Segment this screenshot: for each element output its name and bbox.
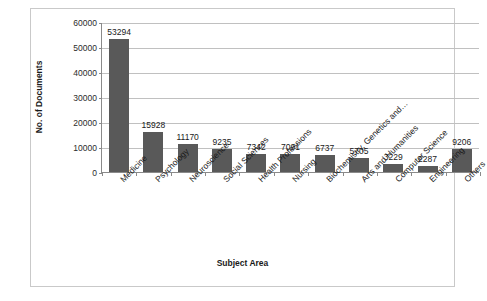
y-axis-tick-label: 60000 <box>73 18 97 28</box>
bar-value-label: 11170 <box>176 132 198 142</box>
y-axis-tick-label: 40000 <box>73 68 97 78</box>
bar-value-label: 9206 <box>452 137 471 147</box>
y-axis-tick-label: 10000 <box>73 143 97 153</box>
bar-slot: 15928 <box>136 23 170 172</box>
y-axis-tick-label: 20000 <box>73 118 97 128</box>
x-axis-tick-mark <box>446 172 447 176</box>
bar-value-label: 6737 <box>315 143 334 153</box>
x-axis-tick-mark <box>343 172 344 176</box>
x-axis-tick-mark <box>102 172 103 176</box>
bar-value-label: 53294 <box>107 27 131 37</box>
bar-value-label: 15928 <box>142 120 166 130</box>
y-axis-tick-label: 30000 <box>73 93 97 103</box>
y-axis-title: No. of Documents <box>34 61 44 134</box>
bar-slot: 53294 <box>102 23 136 172</box>
chart-frame: No. of Documents 60000500004000030000200… <box>30 8 455 287</box>
x-axis-tick-mark <box>239 172 240 176</box>
y-axis-tick-label: 0 <box>92 168 97 178</box>
y-axis-tick-label: 50000 <box>73 43 97 53</box>
bar[interactable] <box>143 132 163 172</box>
bar-slot: 6737 <box>308 23 342 172</box>
x-axis-title: Subject Area <box>31 258 454 268</box>
bar[interactable] <box>109 39 129 172</box>
